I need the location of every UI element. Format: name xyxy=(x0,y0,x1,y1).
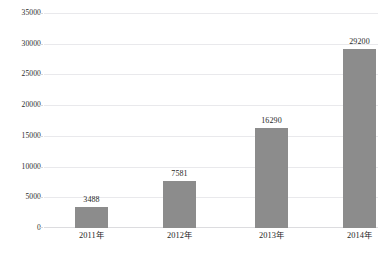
x-axis-tick-label-2011: 2011年 xyxy=(57,231,127,241)
x-axis-tick-label-2014: 2014年 xyxy=(325,231,383,241)
plot-area: 3488 7581 16290 29200 xyxy=(44,13,378,228)
y-tick-mark xyxy=(39,74,43,75)
gridline-35000 xyxy=(44,13,378,14)
bar-value-label: 7581 xyxy=(171,170,187,178)
bar[interactable] xyxy=(163,181,196,228)
y-tick-mark xyxy=(39,44,43,45)
bar-value-label: 16290 xyxy=(261,117,282,125)
bar[interactable] xyxy=(255,128,288,228)
y-tick-mark xyxy=(39,105,43,106)
bar[interactable] xyxy=(343,49,376,228)
bar[interactable] xyxy=(75,207,108,228)
y-tick-mark xyxy=(39,167,43,168)
y-axis-tick-label: 5000 xyxy=(1,193,41,201)
y-axis-tick-label: 15000 xyxy=(1,132,41,140)
x-axis: 2011年 2012年 2013年 2014年 xyxy=(44,231,378,249)
y-tick-mark xyxy=(39,197,43,198)
gridline-15000 xyxy=(44,136,378,137)
bar-chart: 35000 30000 25000 20000 15000 10000 5000… xyxy=(0,0,383,258)
gridline-25000 xyxy=(44,74,378,75)
gridline-10000 xyxy=(44,167,378,168)
x-axis-tick-label-2012: 2012年 xyxy=(145,231,215,241)
gridline-20000 xyxy=(44,105,378,106)
y-axis-tick-label: 25000 xyxy=(1,71,41,79)
bar-value-label: 29200 xyxy=(349,38,370,46)
gridline-30000 xyxy=(44,44,378,45)
y-axis-tick-label: 30000 xyxy=(1,40,41,48)
y-tick-mark xyxy=(39,13,43,14)
bar-value-label: 3488 xyxy=(83,196,99,204)
y-tick-mark xyxy=(39,136,43,137)
x-axis-tick-label-2013: 2013年 xyxy=(237,231,307,241)
y-axis-tick-label: 20000 xyxy=(1,101,41,109)
y-axis-tick-label: 10000 xyxy=(1,163,41,171)
y-axis-tick-label: 0 xyxy=(1,224,41,232)
y-axis: 35000 30000 25000 20000 15000 10000 5000… xyxy=(0,13,41,228)
y-axis-tick-label: 35000 xyxy=(1,9,41,17)
y-tick-mark xyxy=(39,227,43,228)
